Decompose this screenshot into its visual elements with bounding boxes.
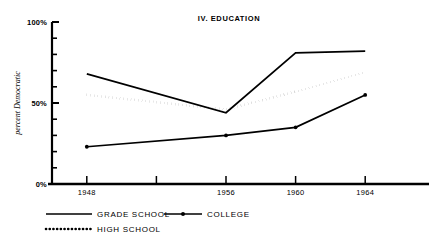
x-tick-label: 1956 (217, 188, 235, 197)
y-tick-label: 0% (36, 180, 47, 189)
x-tick-label: 1948 (78, 188, 96, 197)
series-marker-college (363, 93, 367, 97)
legend-label-high-school: HIGH SCHOOL (97, 225, 161, 234)
x-tick-label: 1960 (287, 188, 305, 197)
legend-label-college: COLLEGE (207, 210, 250, 219)
series-marker-college (85, 145, 89, 149)
series-marker-college (294, 125, 298, 129)
y-axis-label: percent Democratic (13, 71, 22, 136)
legend-label-grade-school: GRADE SCHOOL (97, 210, 170, 219)
chart-background (0, 0, 429, 242)
chart-title: IV. EDUCATION (198, 14, 260, 23)
y-tick-label: 100% (27, 18, 47, 27)
education-line-chart: IV. EDUCATION percent Democratic 0%50%10… (0, 0, 429, 242)
x-tick-label: 1964 (356, 188, 374, 197)
y-tick-label: 50% (31, 99, 47, 108)
series-marker-college (224, 134, 228, 138)
legend-marker-college (181, 212, 185, 216)
